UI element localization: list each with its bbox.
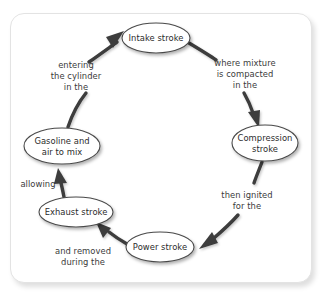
node-compression[interactable]: Compression stroke bbox=[232, 125, 298, 161]
node-power-label: Power stroke bbox=[133, 242, 187, 252]
node-power[interactable]: Power stroke bbox=[126, 232, 194, 262]
node-intake[interactable]: Intake stroke bbox=[122, 23, 190, 53]
node-compression-label-line2: stroke bbox=[252, 144, 278, 154]
edge-gasoline-to-intake-arrow bbox=[68, 93, 86, 127]
edge-label-gasoline-to-intake-line3: in the bbox=[64, 82, 88, 92]
edge-label-power-to-exhaust-line2: during the bbox=[61, 257, 105, 267]
edge-label-gasoline-to-intake-line1: entering bbox=[58, 60, 94, 70]
edge-compression-to-power-arrow bbox=[254, 162, 262, 183]
edge-power-to-exhaust-arrow bbox=[96, 222, 127, 244]
node-intake-label: Intake stroke bbox=[129, 33, 184, 43]
edge-label-gasoline-to-intake: entering the cylinder in the bbox=[51, 60, 102, 92]
edge-compression-to-power-arrow2 bbox=[199, 215, 238, 249]
edge-intake-to-compression-arrow bbox=[189, 43, 216, 60]
node-gasoline-label-line1: Gasoline and bbox=[34, 136, 89, 146]
edge-label-intake-to-compression-line1: where mixture bbox=[214, 58, 275, 68]
node-compression-label-line1: Compression bbox=[238, 133, 293, 143]
node-gasoline-shape[interactable] bbox=[24, 128, 100, 164]
edge-gasoline-to-intake-arrow2 bbox=[89, 31, 124, 62]
edge-label-compression-to-power-line2: for the bbox=[233, 201, 261, 211]
edge-label-exhaust-to-gasoline: allowing bbox=[20, 179, 55, 189]
edge-intake-to-compression-arrow2 bbox=[244, 93, 260, 128]
edge-exhaust-to-gasoline-arrow bbox=[54, 168, 67, 197]
diagram-canvas: Intake stroke Compression stroke Power s… bbox=[0, 0, 328, 296]
node-gasoline-label-line2: air to mix bbox=[42, 147, 83, 157]
node-exhaust-label: Exhaust stroke bbox=[45, 207, 108, 217]
node-compression-shape[interactable] bbox=[232, 125, 298, 161]
edge-label-intake-to-compression-line2: is compacted bbox=[217, 69, 274, 79]
node-gasoline[interactable]: Gasoline and air to mix bbox=[24, 128, 100, 164]
edge-label-intake-to-compression-line3: in the bbox=[233, 80, 257, 90]
edge-label-exhaust-to-gasoline-line1: allowing bbox=[20, 179, 55, 189]
edge-label-intake-to-compression: where mixture is compacted in the bbox=[214, 58, 275, 90]
edge-label-compression-to-power: then ignited for the bbox=[221, 190, 272, 211]
edge-label-gasoline-to-intake-line2: the cylinder bbox=[51, 71, 102, 81]
edge-label-compression-to-power-line1: then ignited bbox=[221, 190, 272, 200]
edge-label-power-to-exhaust-line1: and removed bbox=[55, 246, 111, 256]
edge-label-power-to-exhaust: and removed during the bbox=[55, 246, 111, 267]
cycle-diagram: Intake stroke Compression stroke Power s… bbox=[0, 0, 328, 296]
node-exhaust[interactable]: Exhaust stroke bbox=[39, 197, 113, 227]
